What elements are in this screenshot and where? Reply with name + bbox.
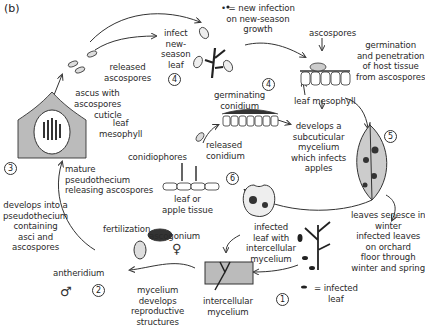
arrow-to-fertilization [130,264,195,270]
label-leaf-or-apple-tissue: leaf orapple tissue [162,194,213,215]
label-germinating-conidium: germinatingconidium [214,90,265,111]
label-released-conidium: releasedconidium [206,140,245,161]
winter-tree-icon [305,222,330,270]
label-intercellular-mycelium: intercellularmycelium [203,296,253,317]
label-leaf-mesophyll-right: leaf mesophyll [294,96,355,107]
label-mature-pseudothecium: maturepseudotheciumreleasing ascospores [65,164,153,196]
label-ascospores: ascospores [309,28,356,39]
label-new-infection: • = new infectionon new-seasongrowth [221,3,295,35]
new-season-growth-icon [205,48,225,78]
stage-3: 3 [4,162,17,175]
infected-apple-icon [243,185,275,217]
panel-label: (b) [4,2,20,15]
stage-4a: 4 [168,73,181,86]
released-ascospores-icon [67,50,97,74]
label-mycelium-develops: myceliumdevelops reproductivestructures [131,285,184,325]
infected-leaf-icon [357,122,387,200]
label-develops-pseudothecium: develops into apseudothecium containinga… [3,200,68,253]
male-symbol: ♂ [60,285,72,298]
stage-1: 1 [276,293,289,306]
label-leaf-mesophyll-left: leafmesophyll [99,118,142,139]
label-infected-leaf-intercellular: infectedleaf with intercellularmycelium [246,222,296,264]
label-conidiophores: conidiophores [128,152,187,163]
label-fertilization: fertilization [103,224,150,235]
female-symbol: ♀ [172,242,182,255]
label-germination: germinationand penetration of host tissu… [356,40,425,82]
label-antheridium: antheridium [53,268,104,279]
stage-5: 5 [384,130,397,143]
stage-2: 2 [92,284,105,297]
label-ascogonium: ascogonium [149,231,200,242]
label-ascus-with-ascospores: ascus withascospores [74,88,121,109]
intercellular-mycelium-icon [205,262,253,290]
label-released-ascospores: releasedascospores [104,62,151,83]
label-subcuticular-mycelium: develops asubcuticularmycelium which inf… [291,121,346,174]
infected-leaf-legend-icon [301,285,307,288]
stage-6: 6 [226,172,239,185]
stage-4b: 4 [262,78,275,91]
label-leaves-senesce: leaves senesce inwinterinfected leaves o… [351,210,425,273]
leaf-cells-ascospores-icon [300,63,350,85]
germinating-conidium-icon [222,110,278,127]
label-infect-new-season-leaf: infectnew- seasonleaf [161,28,191,70]
legend-infected-leaf: = infectedleaf [314,283,358,304]
